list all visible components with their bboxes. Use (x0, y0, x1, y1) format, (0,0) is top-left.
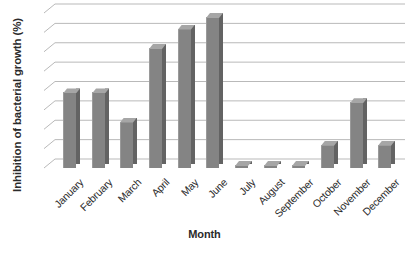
bar-april (149, 0, 162, 168)
bar-top-face (292, 161, 309, 166)
bar-march (120, 0, 133, 168)
bar-june (206, 0, 219, 168)
bar-side-face (162, 44, 166, 164)
bar-side-face (363, 98, 367, 164)
bar-side-face (76, 88, 80, 164)
bar-top-face (235, 161, 252, 166)
bar-chart: Inhibition of bacterial growth (%) Janua… (0, 0, 409, 256)
bar-august (264, 0, 277, 168)
x-axis-title: Month (0, 228, 409, 240)
bar-side-face (105, 88, 109, 164)
bar-february (92, 0, 105, 168)
bars-layer (44, 4, 405, 176)
bar-front-face (120, 122, 133, 169)
bar-top-face (264, 161, 281, 166)
bar-front-face (92, 92, 105, 168)
y-axis-title: Inhibition of bacterial growth (%) (6, 5, 28, 205)
bar-july (235, 0, 248, 168)
bar-front-face (206, 17, 219, 168)
bar-side-face (219, 13, 223, 164)
bar-september (292, 0, 305, 168)
bar-january (63, 0, 76, 168)
bar-front-face (321, 145, 334, 168)
bar-december (378, 0, 391, 168)
bar-front-face (178, 29, 191, 169)
bar-november (350, 0, 363, 168)
bar-side-face (191, 25, 195, 165)
bar-front-face (350, 102, 363, 168)
x-axis-tick-labels: JanuaryFebruaryMarchAprilMayJuneJulyAugu… (44, 176, 405, 228)
bar-may (178, 0, 191, 168)
bar-side-face (133, 118, 137, 165)
bar-front-face (149, 48, 162, 168)
bar-october (321, 0, 334, 168)
plot-area (44, 4, 405, 176)
bar-front-face (63, 92, 76, 168)
bar-front-face (378, 145, 391, 168)
